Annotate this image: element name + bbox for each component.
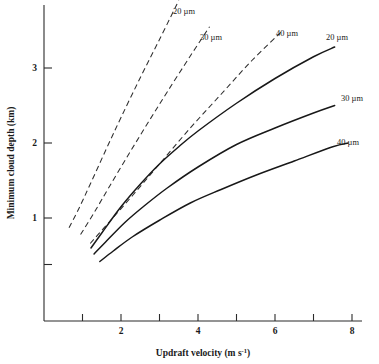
curve-label: 40 µm: [337, 138, 359, 147]
y-tick-label: 1: [32, 213, 37, 223]
y-axis-tick-labels: 123: [32, 63, 37, 223]
y-axis-title: Minimum cloud depth (km): [6, 107, 17, 220]
x-axis-title: Updraft velocity (m s-1): [156, 347, 250, 359]
curve-40um-solid: [100, 143, 348, 262]
y-tick-label: 3: [32, 63, 37, 73]
curve-label: 20 µm: [173, 7, 195, 16]
x-axis-ticks: [83, 314, 353, 321]
y-tick-label: 2: [32, 138, 37, 148]
curve-label: 30 µm: [200, 33, 222, 42]
curve-label: 30 µm: [341, 94, 363, 103]
chart-canvas: 2468 123 20 µm30 µm40 µm20 µm30 µm40 µm …: [0, 0, 379, 364]
x-tick-label: 8: [350, 326, 355, 336]
curve-30um-solid: [94, 106, 335, 255]
curve-20um-dashed: [69, 1, 179, 228]
curve-annotations-group: 20 µm30 µm40 µm20 µm30 µm40 µm: [173, 7, 363, 147]
curve-label: 40 µm: [276, 29, 298, 38]
curve-label: 20 µm: [326, 33, 348, 42]
x-tick-label: 2: [119, 326, 124, 336]
x-axis-tick-labels: 2468: [119, 326, 355, 336]
curve-20um-solid: [91, 47, 335, 248]
x-tick-label: 4: [196, 326, 201, 336]
x-tick-label: 6: [273, 326, 278, 336]
y-axis-ticks: [44, 68, 52, 265]
figure-container: 2468 123 20 µm30 µm40 µm20 µm30 µm40 µm …: [0, 0, 379, 364]
